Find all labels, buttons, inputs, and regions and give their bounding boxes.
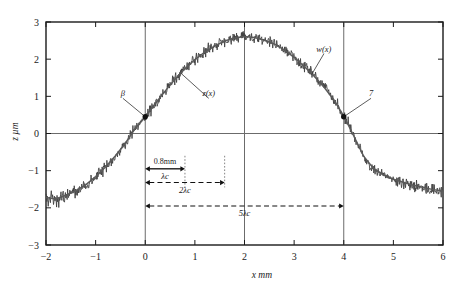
y-tick-label-2: −1 xyxy=(28,165,39,176)
annotation-label-point-7: 7 xyxy=(369,88,374,98)
y-tick-label-3: 0 xyxy=(34,128,39,139)
y-tick-label-0: −3 xyxy=(28,240,39,251)
x-axis-label: x mm xyxy=(251,270,272,280)
y-tick-label-1: −2 xyxy=(28,202,39,213)
data-point-marker-point-7 xyxy=(341,114,346,119)
chart-figure: −2−10123456−3−2−10123x mmz µm0.8mmλc2λc5… xyxy=(0,0,468,293)
annotation-label-z-of-x: z(x) xyxy=(201,88,215,98)
x-tick-label-6: 4 xyxy=(341,251,346,262)
x-tick-label-8: 6 xyxy=(441,251,446,262)
data-point-marker-beta xyxy=(143,114,148,119)
y-tick-label-4: 1 xyxy=(34,91,39,102)
dimension-label-below-five-lambda-c: 5λc xyxy=(239,208,251,218)
y-tick-label-6: 3 xyxy=(34,17,39,28)
annotation-label-w-of-x: w(x) xyxy=(316,44,331,54)
annotation-label-beta: β xyxy=(120,88,126,98)
x-tick-label-2: 0 xyxy=(143,251,148,262)
y-axis-label: z µm xyxy=(10,122,20,142)
x-tick-label-3: 1 xyxy=(192,251,197,262)
dimension-label-above-lambda-c: 0.8mm xyxy=(154,157,177,166)
x-tick-label-0: −2 xyxy=(41,251,52,262)
y-tick-label-5: 2 xyxy=(34,54,39,65)
x-tick-label-5: 3 xyxy=(292,251,297,262)
x-tick-label-7: 5 xyxy=(391,251,396,262)
dimension-label-below-lambda-c: λc xyxy=(160,171,169,181)
x-tick-label-1: −1 xyxy=(90,251,101,262)
dimension-label-below-two-lambda-c: 2λc xyxy=(179,185,191,195)
surface-profile-chart: −2−10123456−3−2−10123x mmz µm0.8mmλc2λc5… xyxy=(0,0,468,293)
x-tick-label-4: 2 xyxy=(242,251,247,262)
